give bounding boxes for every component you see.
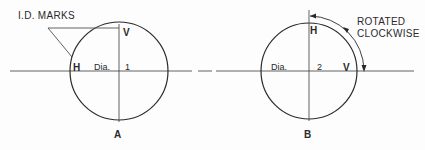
callout-line-h: [48, 28, 72, 57]
mark-h-a: H: [73, 63, 80, 73]
arrowhead-start-icon: [310, 14, 316, 19]
diameter-number-a: 1: [125, 63, 130, 72]
mark-v-a: V: [123, 28, 130, 38]
diameter-label-a: Dia.: [94, 63, 110, 72]
caption-a: A: [114, 130, 121, 140]
rotated-label-line1: ROTATED: [357, 17, 405, 27]
mark-h-b: H: [310, 26, 317, 36]
rotated-label-line2: CLOCKWISE: [357, 29, 420, 39]
figure: I.D. MARKS V H Dia. 1 A H Dia. 2 V ROTAT…: [0, 0, 425, 150]
diameter-number-b: 2: [317, 63, 322, 72]
id-marks-label: I.D. MARKS: [18, 11, 75, 21]
caption-b: B: [304, 130, 311, 140]
mark-v-b: V: [343, 63, 350, 73]
diameter-label-b: Dia.: [271, 63, 287, 72]
